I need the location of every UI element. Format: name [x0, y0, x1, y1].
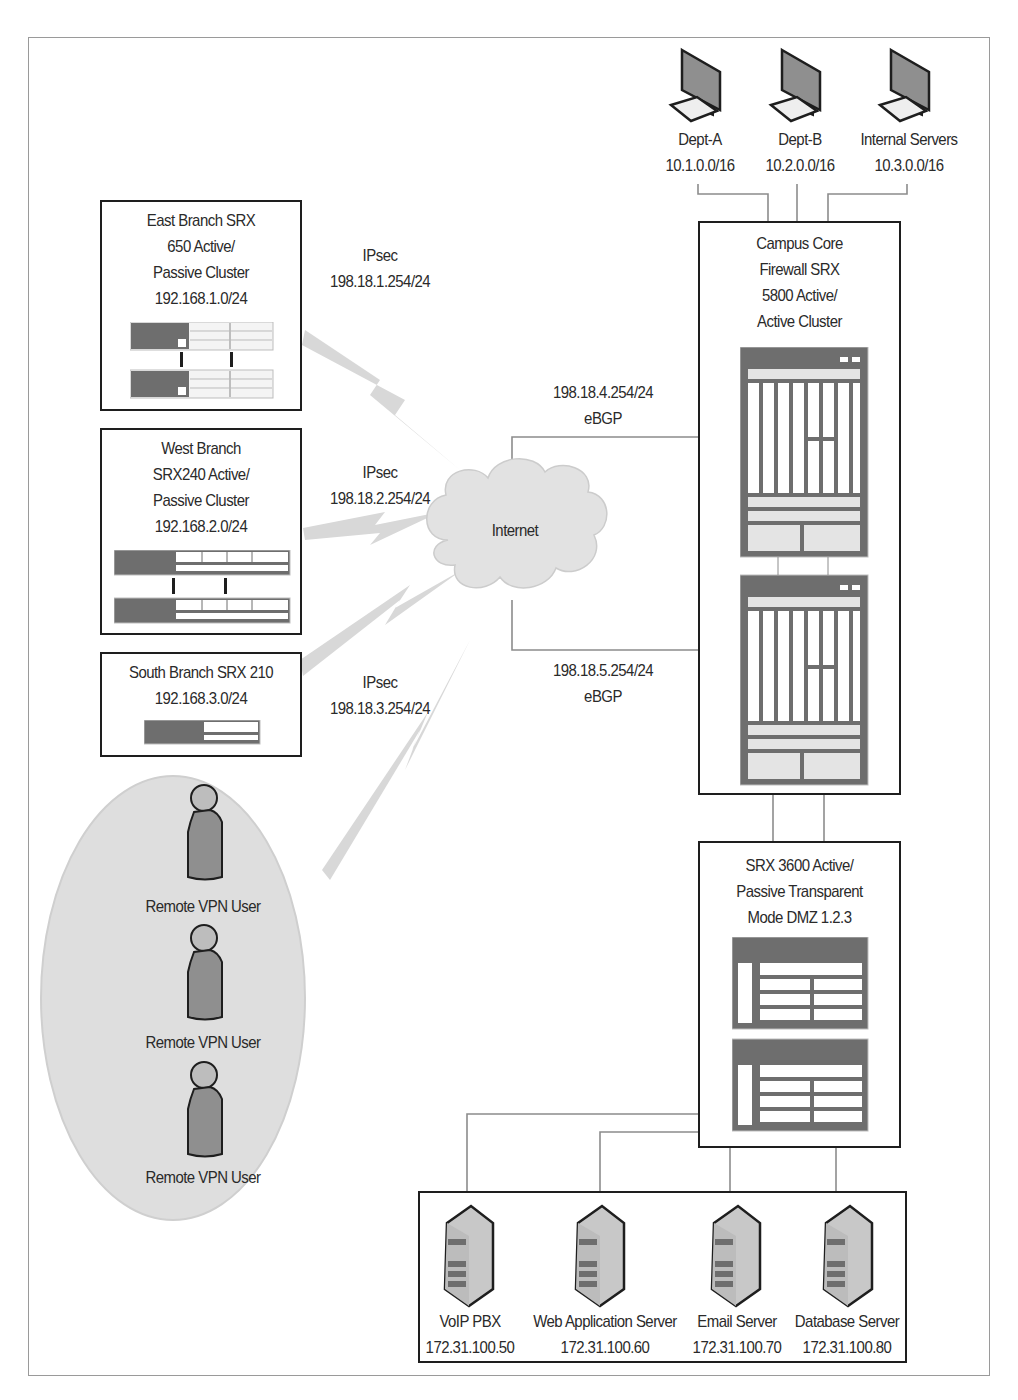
- internet-label: Internet: [475, 518, 554, 544]
- desktop-computer-icon: [755, 45, 845, 130]
- server-tower-icon: [704, 1201, 764, 1311]
- srx5800-chassis-pair-icon: [740, 347, 870, 787]
- server-name: Web Application Server: [521, 1309, 688, 1335]
- east-branch-mode: Passive Cluster: [114, 260, 288, 286]
- ebgp-proto: eBGP: [533, 406, 674, 432]
- link-ip: 198.18.3.254/24: [310, 696, 451, 722]
- link-ip: 198.18.2.254/24: [310, 486, 451, 512]
- core-title-line-4: Active Cluster: [712, 309, 887, 335]
- server-email: Email Server 172.31.100.70: [682, 1193, 792, 1363]
- user-person-icon: [180, 782, 230, 882]
- server-name: Email Server: [680, 1309, 794, 1335]
- west-branch-mode: Passive Cluster: [114, 488, 288, 514]
- desktop-computer-icon: [864, 45, 954, 130]
- server-tower-icon: [816, 1201, 876, 1311]
- link-type: IPsec: [310, 670, 451, 696]
- ebgp-link-1-label: 198.18.4.254/24 eBGP: [533, 380, 674, 432]
- dmz-title-line-1: SRX 3600 Active/: [712, 853, 887, 879]
- east-branch-model: 650 Active/: [114, 234, 288, 260]
- srx210-icon: [144, 720, 262, 746]
- dmz-srx3600-box: SRX 3600 Active/ Passive Transparent Mod…: [698, 841, 901, 1148]
- workstation-subnet: 10.3.0.0/16: [839, 153, 980, 179]
- vpn-user-2: Remote VPN User: [128, 920, 278, 1060]
- link-ip: 198.18.1.254/24: [310, 269, 451, 295]
- desktop-computer-icon: [655, 45, 745, 130]
- srx240-cluster-icon: [114, 550, 292, 628]
- workstation-dept-a: Dept-A 10.1.0.0/16: [655, 45, 745, 185]
- ebgp-link-2-label: 198.18.5.254/24 eBGP: [533, 658, 674, 710]
- dmz-servers-box: VoIP PBX 172.31.100.50 Web Application S…: [418, 1191, 907, 1363]
- campus-core-box: Campus Core Firewall SRX 5800 Active/ Ac…: [698, 221, 901, 795]
- vpn-user-label: Remote VPN User: [137, 894, 269, 920]
- server-web-application: Web Application Server 172.31.100.60: [530, 1193, 680, 1363]
- workstation-dept-b: Dept-B 10.2.0.0/16: [755, 45, 845, 185]
- south-ipsec-label: IPsec 198.18.3.254/24: [310, 670, 451, 722]
- server-ip: 172.31.100.50: [417, 1335, 523, 1361]
- vpn-user-label: Remote VPN User: [137, 1030, 269, 1056]
- east-branch-box: East Branch SRX 650 Active/ Passive Clus…: [100, 200, 302, 411]
- workstation-name: Dept-B: [752, 127, 849, 153]
- srx650-cluster-icon: [130, 322, 275, 402]
- vpn-user-label: Remote VPN User: [137, 1165, 269, 1191]
- workstation-subnet: 10.2.0.0/16: [752, 153, 849, 179]
- workstation-name: Dept-A: [652, 127, 749, 153]
- west-branch-model: SRX240 Active/: [114, 462, 288, 488]
- vpn-user-1: Remote VPN User: [128, 780, 278, 920]
- server-name: Database Server: [790, 1309, 904, 1335]
- ebgp-ip: 198.18.5.254/24: [533, 658, 674, 684]
- east-ipsec-label: IPsec 198.18.1.254/24: [310, 243, 451, 295]
- west-branch-title: West Branch: [114, 436, 288, 462]
- dmz-title-line-2: Passive Transparent: [712, 879, 887, 905]
- ebgp-proto: eBGP: [533, 684, 674, 710]
- server-tower-icon: [437, 1201, 497, 1311]
- west-branch-subnet: 192.168.2.0/24: [114, 514, 288, 540]
- server-name: VoIP PBX: [417, 1309, 523, 1335]
- west-ipsec-label: IPsec 198.18.2.254/24: [310, 460, 451, 512]
- core-title-line-1: Campus Core: [712, 231, 887, 257]
- core-title-line-2: Firewall SRX: [712, 257, 887, 283]
- server-voip-pbx: VoIP PBX 172.31.100.50: [420, 1193, 520, 1363]
- server-ip: 172.31.100.60: [521, 1335, 688, 1361]
- east-branch-title: East Branch SRX: [114, 208, 288, 234]
- link-type: IPsec: [310, 460, 451, 486]
- ipsec-bolts: [300, 330, 470, 880]
- core-title-line-3: 5800 Active/: [712, 283, 887, 309]
- south-branch-box: South Branch SRX 210 192.168.3.0/24: [100, 652, 302, 757]
- south-branch-title: South Branch SRX 210: [114, 660, 288, 686]
- srx3600-pair-icon: [732, 937, 872, 1137]
- ebgp-ip: 198.18.4.254/24: [533, 380, 674, 406]
- south-branch-subnet: 192.168.3.0/24: [114, 686, 288, 712]
- user-person-icon: [180, 1059, 230, 1159]
- server-database: Database Server 172.31.100.80: [788, 1193, 906, 1363]
- west-branch-box: West Branch SRX240 Active/ Passive Clust…: [100, 428, 302, 635]
- vpn-user-3: Remote VPN User: [128, 1057, 278, 1197]
- server-ip: 172.31.100.80: [790, 1335, 904, 1361]
- workstation-subnet: 10.1.0.0/16: [652, 153, 749, 179]
- server-ip: 172.31.100.70: [680, 1335, 794, 1361]
- dmz-title-line-3: Mode DMZ 1.2.3: [712, 905, 887, 931]
- workstation-name: Internal Servers: [839, 127, 980, 153]
- server-tower-icon: [568, 1201, 628, 1311]
- workstation-internal-servers: Internal Servers 10.3.0.0/16: [864, 45, 954, 185]
- user-person-icon: [180, 922, 230, 1022]
- east-branch-subnet: 192.168.1.0/24: [114, 286, 288, 312]
- link-type: IPsec: [310, 243, 451, 269]
